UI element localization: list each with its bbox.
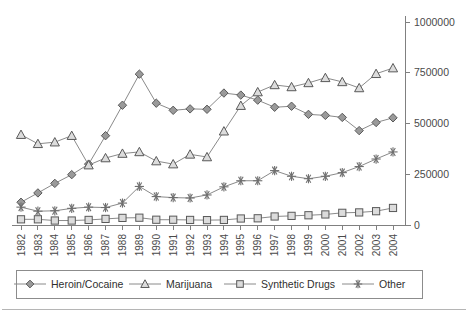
marker-diamond <box>135 70 143 78</box>
x-axis-tick-label: 2004 <box>388 234 399 257</box>
marker-square <box>51 217 58 224</box>
marker-triangle <box>50 138 59 146</box>
marker-diamond <box>372 118 380 126</box>
marker-asterisk <box>101 203 110 212</box>
marker-triangle <box>135 147 144 155</box>
marker-square <box>119 214 126 221</box>
x-axis-tick-label: 1994 <box>219 234 230 257</box>
x-axis-tick-label: 1990 <box>151 234 162 257</box>
marker-square <box>356 209 363 216</box>
x-axis-tick-label: 1996 <box>252 234 263 257</box>
marker-asterisk <box>84 203 93 212</box>
x-axis-tick-label: 1995 <box>235 234 246 257</box>
marker-asterisk <box>202 190 211 199</box>
marker-asterisk <box>304 174 313 183</box>
marker-square <box>322 211 329 218</box>
marker-square <box>17 216 24 223</box>
x-axis-tick-label: 1983 <box>33 234 44 257</box>
series-synthetic-drugs <box>17 204 396 224</box>
marker-square <box>372 208 379 215</box>
y-axis-tick-label: 1000000 <box>414 16 455 28</box>
y-axis-tick-label: 0 <box>414 219 420 231</box>
marker-square <box>102 215 109 222</box>
x-axis-tick-label: 1991 <box>168 234 179 257</box>
marker-triangle <box>270 80 279 88</box>
marker-triangle <box>152 156 161 164</box>
x-axis-tick-label: 1998 <box>286 234 297 257</box>
x-axis-tick-label: 1982 <box>16 234 27 257</box>
marker-asterisk <box>185 193 194 202</box>
x-axis-tick-label: 1992 <box>185 234 196 257</box>
marker-asterisk <box>219 182 228 191</box>
marker-triangle <box>371 69 380 77</box>
marker-square <box>271 213 278 220</box>
marker-diamond <box>338 113 346 121</box>
marker-diamond <box>321 111 329 119</box>
marker-square <box>186 216 193 223</box>
marker-square <box>389 204 396 211</box>
y-axis-tick-label: 750000 <box>414 66 449 78</box>
x-axis-tick-label: 1986 <box>83 234 94 257</box>
marker-square <box>288 212 295 219</box>
marker-diamond <box>101 131 109 139</box>
marker-asterisk <box>388 147 397 156</box>
x-axis-tick-label: 2002 <box>354 234 365 257</box>
marker-square <box>305 212 312 219</box>
x-axis-tick-label: 1984 <box>49 234 60 257</box>
marker-triangle <box>67 131 76 139</box>
marker-triangle <box>321 73 330 81</box>
chart-figure: 0250000500000750000100000019821983198419… <box>0 0 468 319</box>
legend-label: Synthetic Drugs <box>261 278 335 290</box>
marker-diamond <box>186 105 194 113</box>
marker-diamond <box>118 101 126 109</box>
x-axis-tick-label: 1997 <box>269 234 280 257</box>
marker-square <box>34 216 41 223</box>
y-axis-tick-label: 250000 <box>414 168 449 180</box>
marker-diamond <box>254 96 262 104</box>
marker-asterisk <box>355 162 364 171</box>
marker-square <box>85 216 92 223</box>
marker-square <box>68 217 75 224</box>
marker-diamond <box>355 126 363 134</box>
marker-asterisk <box>169 193 178 202</box>
x-axis-tick-label: 1987 <box>100 234 111 257</box>
marker-diamond <box>68 170 76 178</box>
x-axis-tick-label: 1988 <box>117 234 128 257</box>
marker-asterisk <box>270 166 279 175</box>
marker-square <box>237 215 244 222</box>
marker-diamond <box>389 114 397 122</box>
marker-triangle <box>219 127 228 135</box>
marker-diamond <box>287 102 295 110</box>
x-axis-tick-label: 1985 <box>66 234 77 257</box>
marker-square <box>220 216 227 223</box>
legend-label: Other <box>379 278 406 290</box>
marker-triangle <box>16 130 25 138</box>
marker-asterisk <box>371 154 380 163</box>
marker-asterisk <box>338 168 347 177</box>
marker-asterisk <box>152 192 161 201</box>
marker-diamond <box>169 106 177 114</box>
marker-asterisk <box>33 207 42 216</box>
marker-square <box>136 214 143 221</box>
drug-seizures-line-chart: 0250000500000750000100000019821983198419… <box>0 0 468 319</box>
marker-asterisk <box>287 172 296 181</box>
marker-triangle <box>388 63 397 71</box>
legend-label: Heroin/Cocaine <box>51 278 124 290</box>
marker-diamond <box>51 179 59 187</box>
marker-asterisk <box>50 206 59 215</box>
marker-asterisk <box>236 176 245 185</box>
x-axis-tick-label: 2000 <box>320 234 331 257</box>
x-axis-tick-label: 1989 <box>134 234 145 257</box>
x-axis-tick-label: 2001 <box>337 234 348 257</box>
plot-area <box>16 63 397 224</box>
legend-label: Marijuana <box>166 278 212 290</box>
marker-diamond <box>34 189 42 197</box>
marker-square <box>170 216 177 223</box>
series-line <box>21 74 393 202</box>
marker-diamond <box>270 103 278 111</box>
marker-square <box>237 281 244 288</box>
marker-triangle <box>236 101 245 109</box>
marker-diamond <box>304 110 312 118</box>
marker-asterisk <box>253 176 262 185</box>
x-axis-tick-label: 1999 <box>303 234 314 257</box>
